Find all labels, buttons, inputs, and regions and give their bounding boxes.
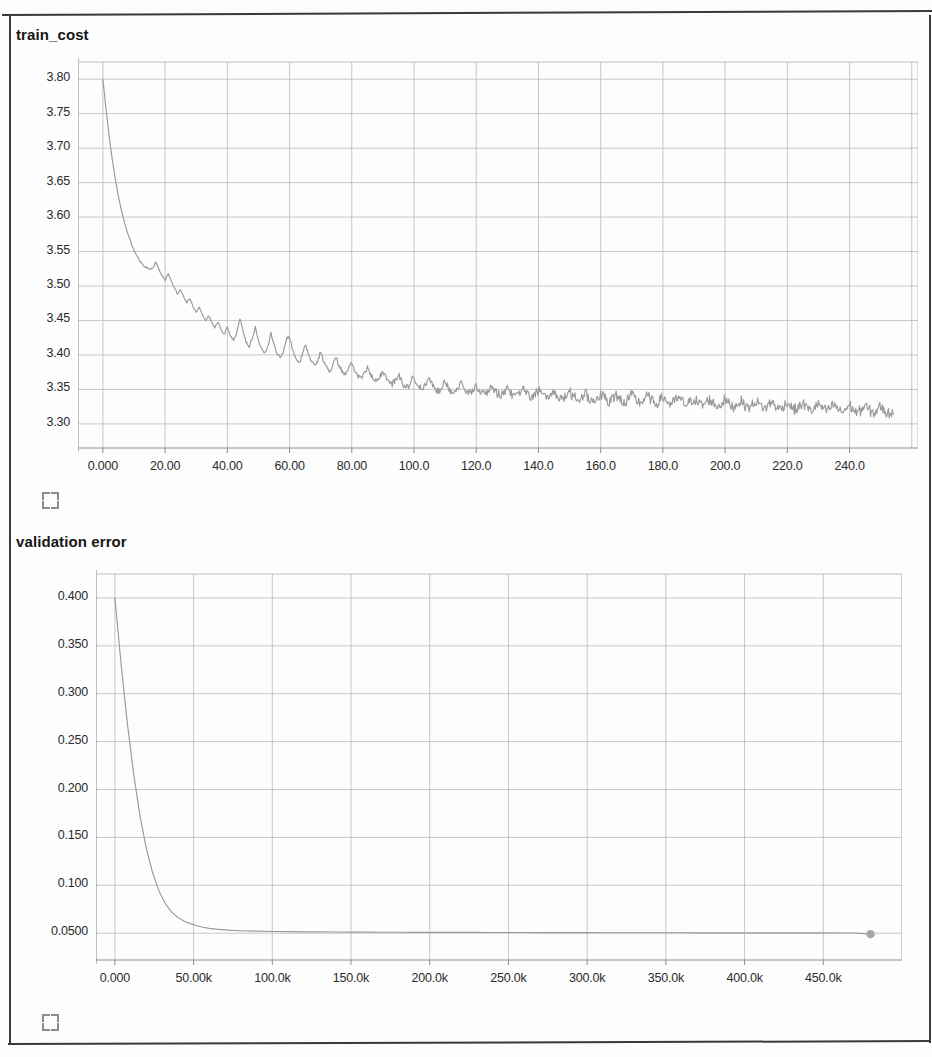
x-axis-tick-label: 20.00: [130, 459, 200, 473]
y-axis-tick-label: 3.40: [6, 346, 70, 360]
x-axis-tick-label: 100.0k: [237, 971, 307, 985]
x-axis-tick-label: 60.00: [255, 459, 325, 473]
expand-corner-top-left: [42, 492, 50, 500]
expand-icon[interactable]: [42, 492, 59, 509]
x-axis-tick-label: 450.0k: [788, 971, 858, 985]
x-axis-tick-label: 240.0: [815, 459, 885, 473]
y-axis-tick-label: 3.30: [6, 415, 70, 429]
x-axis-tick-label: 180.0: [628, 459, 698, 473]
y-axis-tick-label: 3.35: [6, 380, 70, 394]
x-axis-tick-label: 220.0: [752, 459, 822, 473]
x-axis-tick-label: 300.0k: [552, 971, 622, 985]
chart-svg: [96, 570, 902, 1010]
scanned-page-frame: train_cost 3.303.353.403.453.503.553.603…: [0, 0, 932, 1057]
x-axis-tick-label: 250.0k: [473, 971, 543, 985]
y-axis-tick-label: 0.250: [24, 733, 88, 747]
x-axis-tick-label: 200.0k: [395, 971, 465, 985]
y-axis-tick-label: 0.100: [24, 876, 88, 890]
chart-title-train-cost: train_cost: [16, 26, 89, 43]
y-axis-tick-label: 3.50: [6, 277, 70, 291]
y-axis-tick-label: 3.75: [6, 105, 70, 119]
x-axis-tick-label: 50.00k: [159, 971, 229, 985]
x-axis-tick-label: 40.00: [192, 459, 262, 473]
y-axis-tick-label: 0.150: [24, 828, 88, 842]
y-axis-tick-label: 3.65: [6, 174, 70, 188]
chart-svg: [78, 58, 918, 490]
x-axis-tick-label: 120.0: [441, 459, 511, 473]
x-axis-tick-label: 400.0k: [710, 971, 780, 985]
x-axis-tick-label: 350.0k: [631, 971, 701, 985]
x-axis-tick-label: 0.000: [80, 971, 150, 985]
x-axis-tick-label: 100.0: [379, 459, 449, 473]
x-axis-tick-label: 140.0: [503, 459, 573, 473]
y-axis-tick-label: 3.70: [6, 139, 70, 153]
x-axis-tick-label: 160.0: [566, 459, 636, 473]
y-axis-tick-label: 0.0500: [24, 924, 88, 938]
x-axis-tick-label: 200.0: [690, 459, 760, 473]
y-axis-tick-label: 0.200: [24, 781, 88, 795]
data-line-1: [103, 79, 893, 418]
y-axis-tick-label: 3.80: [6, 70, 70, 84]
expand-corner-bottom-right: [51, 501, 59, 509]
data-line-1: [115, 598, 871, 934]
expand-corner-bottom-left: [42, 1023, 50, 1031]
y-axis-tick-label: 0.400: [24, 589, 88, 603]
y-axis-tick-label: 3.60: [6, 208, 70, 222]
chart-panel-validation-error: validation error 0.05000.1000.1500.2000.…: [0, 520, 932, 1050]
y-axis-tick-label: 3.45: [6, 311, 70, 325]
y-axis-tick-label: 0.350: [24, 637, 88, 651]
expand-corner-top-right: [51, 1014, 59, 1022]
chart-panel-train-cost: train_cost 3.303.353.403.453.503.553.603…: [0, 0, 932, 520]
chart-title-validation-error: validation error: [16, 533, 127, 550]
plot-area-train-cost[interactable]: 3.303.353.403.453.503.553.603.653.703.75…: [78, 58, 918, 490]
expand-icon[interactable]: [42, 1014, 59, 1031]
expand-corner-top-right: [51, 492, 59, 500]
expand-corner-bottom-right: [51, 1023, 59, 1031]
plot-area-validation-error[interactable]: 0.05000.1000.1500.2000.2500.3000.3500.40…: [96, 570, 902, 1010]
expand-corner-top-left: [42, 1014, 50, 1022]
y-axis-tick-label: 0.300: [24, 685, 88, 699]
x-axis-tick-label: 80.00: [317, 459, 387, 473]
x-axis-tick-label: 150.0k: [316, 971, 386, 985]
data-point-marker: [866, 930, 874, 938]
y-axis-tick-label: 3.55: [6, 243, 70, 257]
x-axis-tick-label: 0.000: [68, 459, 138, 473]
expand-corner-bottom-left: [42, 501, 50, 509]
